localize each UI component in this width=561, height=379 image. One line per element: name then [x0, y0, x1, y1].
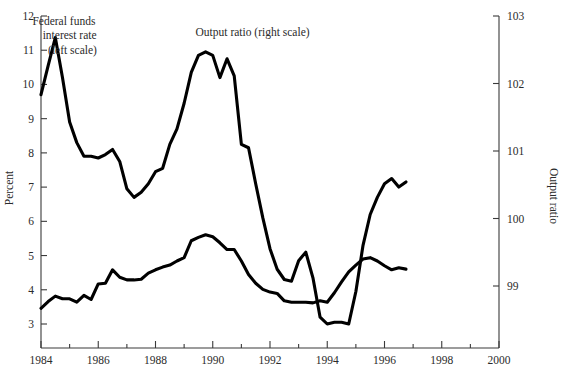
x-axis-tick-label: 1996 — [373, 354, 396, 366]
annotation-fed-funds-line1: Federal funds — [32, 15, 95, 27]
bottom-axis: 198419861988199019921994199619982000 — [30, 341, 511, 366]
x-axis-tick-label: 1990 — [201, 354, 224, 366]
left-axis-tick-label: 3 — [28, 318, 34, 330]
right-axis-tick-label: 101 — [507, 145, 525, 157]
series-fed-funds-rate — [41, 38, 406, 324]
right-axis: 10310210110099 — [493, 10, 525, 348]
left-axis-tick-label: 8 — [28, 147, 34, 159]
x-axis-tick-label: 1994 — [316, 354, 339, 366]
left-axis-tick-label: 5 — [28, 250, 34, 262]
left-axis-tick-label: 9 — [28, 113, 34, 125]
x-axis-tick-label: 1992 — [259, 354, 282, 366]
series-output-ratio — [41, 235, 406, 309]
annotation-fed-funds-line3: (left scale) — [48, 44, 97, 57]
right-axis-tick-label: 103 — [507, 10, 525, 22]
x-axis-tick-label: 2000 — [488, 354, 511, 366]
x-axis-tick-label: 1988 — [144, 354, 167, 366]
axis-titles: PercentOutput ratio — [3, 168, 560, 224]
x-axis-tick-label: 1986 — [87, 354, 110, 366]
left-axis-tick-label: 4 — [28, 284, 34, 296]
left-axis-title: Percent — [3, 170, 15, 205]
left-axis-tick-label: 10 — [23, 78, 35, 90]
chart-canvas: 1211109876543 10310210110099 19841986198… — [0, 0, 561, 379]
annotation-fed-funds-line2: interest rate — [43, 29, 97, 41]
left-axis-tick-label: 11 — [23, 44, 34, 56]
data-series-group — [41, 38, 406, 324]
x-axis-tick-label: 1998 — [430, 354, 453, 366]
right-axis-title: Output ratio — [547, 168, 560, 224]
chart-annotations: Federal fundsinterest rate(left scale)Ou… — [32, 15, 309, 57]
right-axis-tick-label: 102 — [507, 78, 525, 90]
chart-figure: 1211109876543 10310210110099 19841986198… — [0, 0, 561, 379]
left-axis-tick-label: 7 — [28, 181, 34, 193]
left-axis: 1211109876543 — [23, 10, 48, 348]
x-axis-tick-label: 1984 — [30, 354, 53, 366]
left-axis-tick-label: 6 — [28, 215, 34, 227]
right-axis-tick-label: 99 — [507, 280, 519, 292]
right-axis-tick-label: 100 — [507, 213, 525, 225]
annotation-output-ratio: Output ratio (right scale) — [196, 26, 310, 39]
